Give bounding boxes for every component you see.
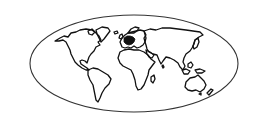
island-new-zealand — [207, 89, 213, 95]
world-map — [0, 0, 257, 124]
world-map-svg — [0, 0, 257, 124]
continent-south-america — [88, 68, 111, 102]
continent-north-america — [55, 29, 101, 70]
continent-africa — [118, 49, 155, 90]
region-arabia — [146, 50, 154, 58]
island-japan — [193, 38, 199, 49]
islands-southeast-asia — [182, 69, 190, 74]
map-frame-ellipse — [30, 15, 238, 112]
island-madagascar — [151, 75, 155, 83]
island-sri-lanka — [162, 65, 164, 68]
island-britain — [119, 34, 123, 39]
highlighted-region-central-europe — [124, 36, 135, 45]
continent-australia — [185, 75, 206, 92]
island-new-guinea — [195, 69, 205, 73]
island-borneo — [188, 62, 193, 68]
island-iceland — [114, 31, 118, 34]
island-tasmania — [199, 93, 201, 95]
